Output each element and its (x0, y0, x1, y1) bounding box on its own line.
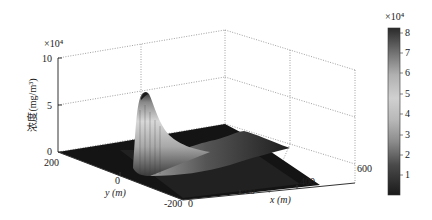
z-tick-0: 0 (47, 146, 52, 157)
y-axis-label: y (m) (104, 187, 126, 199)
cbar-tick-6: 6 (405, 67, 410, 78)
x-tick-200: 200 (240, 185, 255, 196)
cbar-tick-5: 5 (405, 88, 410, 99)
cbar-tick-3: 3 (405, 129, 410, 140)
cbar-tick-2: 2 (405, 149, 410, 160)
z-axis-label: 浓度(mg/m³) (26, 79, 39, 132)
colorbar: ×10⁴ 8 7 6 5 4 3 2 1 (385, 11, 410, 195)
z-tick-5: 5 (47, 100, 52, 111)
cbar-tick-4: 4 (405, 108, 410, 119)
x-tick-0: 0 (188, 198, 193, 209)
z-multiplier: ×10⁴ (44, 38, 64, 49)
colorbar-multiplier: ×10⁴ (385, 11, 405, 22)
cbar-tick-7: 7 (405, 47, 410, 58)
y-tick-200: 200 (44, 157, 59, 168)
cbar-tick-8: 8 (405, 27, 410, 38)
x-tick-600: 600 (357, 163, 372, 174)
x-axis-label: x (m) (269, 194, 291, 206)
cbar-tick-1: 1 (405, 169, 410, 180)
y-tick-0: 0 (115, 175, 120, 186)
x-tick-400: 400 (300, 176, 315, 187)
surface-plot: ×10⁴ 10 5 0 浓度(mg/m³) 200 0 -200 y (m) 0… (0, 0, 432, 220)
y-tick-neg200: -200 (164, 198, 182, 209)
z-tick-10: 10 (42, 53, 52, 64)
